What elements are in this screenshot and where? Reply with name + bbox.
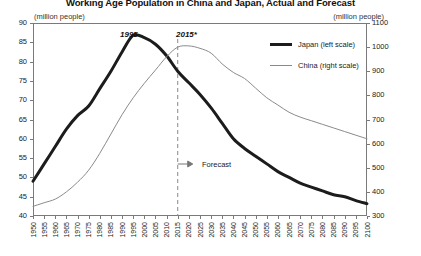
x-tickmark — [33, 216, 34, 219]
x-tickmark — [100, 216, 101, 219]
x-tick-2055: 2055 — [263, 222, 270, 238]
x-tickmark — [356, 216, 357, 219]
x-tick-2015: 2015 — [174, 222, 181, 238]
y-tickmark-right — [367, 95, 370, 96]
y-tick-left-40: 40 — [5, 212, 27, 220]
legend-swatch-china-icon — [270, 65, 292, 66]
x-tickmark — [66, 216, 67, 219]
y-tick-left-65: 65 — [5, 116, 27, 124]
x-tickmark — [267, 216, 268, 219]
x-tick-2000: 2000 — [141, 222, 148, 238]
x-tick-2010: 2010 — [163, 222, 170, 238]
x-tickmark — [345, 216, 346, 219]
x-tick-1975: 1975 — [85, 222, 92, 238]
y-tick-right-400: 400 — [372, 188, 398, 196]
x-tickmark — [278, 216, 279, 219]
x-tickmark — [78, 216, 79, 219]
y-tick-left-80: 80 — [5, 58, 27, 66]
x-tick-2040: 2040 — [230, 222, 237, 238]
forecast-arrow-icon — [178, 161, 193, 167]
x-tickmark — [334, 216, 335, 219]
x-tick-2060: 2060 — [274, 222, 281, 238]
y-tick-left-70: 70 — [5, 96, 27, 104]
x-tickmark — [155, 216, 156, 219]
x-tickmark — [44, 216, 45, 219]
y-tick-left-60: 60 — [5, 135, 27, 143]
x-tickmark — [144, 216, 145, 219]
annotation-forecast: Forecast — [202, 160, 231, 169]
x-tickmark — [133, 216, 134, 219]
x-tick-1980: 1980 — [96, 222, 103, 238]
x-tickmark — [300, 216, 301, 219]
chart-title: Working Age Population in China and Japa… — [0, 0, 421, 8]
x-tickmark — [111, 216, 112, 219]
x-tickmark — [311, 216, 312, 219]
x-tick-2020: 2020 — [185, 222, 192, 238]
x-tickmark — [211, 216, 212, 219]
y-tickmark-right — [367, 168, 370, 169]
x-tick-2050: 2050 — [252, 222, 259, 238]
x-tickmark — [167, 216, 168, 219]
y-tick-right-500: 500 — [372, 164, 398, 172]
x-tick-2095: 2095 — [352, 222, 359, 238]
x-tickmark — [256, 216, 257, 219]
x-tick-2030: 2030 — [208, 222, 215, 238]
x-tickmark — [245, 216, 246, 219]
y-tick-left-90: 90 — [5, 19, 27, 27]
x-tickmark — [189, 216, 190, 219]
y-tick-left-75: 75 — [5, 77, 27, 85]
x-tickmark — [122, 216, 123, 219]
x-tick-2025: 2025 — [197, 222, 204, 238]
x-tickmark — [55, 216, 56, 219]
x-tick-1995: 1995 — [130, 222, 137, 238]
y-tick-right-1100: 1100 — [372, 19, 398, 27]
y-tick-right-700: 700 — [372, 116, 398, 124]
x-tick-2005: 2005 — [152, 222, 159, 238]
left-axis-unit-label: (million people) — [34, 12, 85, 21]
legend-item-japan: Japan (left scale) — [270, 40, 390, 49]
x-tick-1955: 1955 — [41, 222, 48, 238]
x-tick-1950: 1950 — [30, 222, 37, 238]
y-tickmark-right — [367, 120, 370, 121]
x-tickmark — [367, 216, 368, 219]
x-tick-2070: 2070 — [297, 222, 304, 238]
annotation-1995: 1995 — [120, 30, 138, 39]
y-tick-left-45: 45 — [5, 193, 27, 201]
y-tick-right-600: 600 — [372, 140, 398, 148]
x-axis-ticks: 1950195519601965197019751980198519901995… — [33, 219, 367, 256]
x-tick-2075: 2075 — [308, 222, 315, 238]
x-tickmark — [89, 216, 90, 219]
x-tick-2035: 2035 — [219, 222, 226, 238]
y-tick-right-800: 800 — [372, 91, 398, 99]
y-tick-right-300: 300 — [372, 212, 398, 220]
x-tick-2100: 2100 — [364, 222, 371, 238]
y-tickmark-right — [367, 192, 370, 193]
y-tickmark-right — [367, 144, 370, 145]
x-tickmark — [222, 216, 223, 219]
x-tickmark — [322, 216, 323, 219]
y-tick-left-50: 50 — [5, 173, 27, 181]
x-tick-2085: 2085 — [330, 222, 337, 238]
x-tick-2090: 2090 — [341, 222, 348, 238]
legend-swatch-japan-icon — [270, 43, 292, 46]
x-tickmark — [289, 216, 290, 219]
x-tickmark — [233, 216, 234, 219]
x-tickmark — [178, 216, 179, 219]
y-tick-left-85: 85 — [5, 38, 27, 46]
x-tickmark — [200, 216, 201, 219]
chart-root: Working Age Population in China and Japa… — [0, 0, 421, 256]
legend-label-japan: Japan (left scale) — [298, 40, 355, 49]
x-tick-2080: 2080 — [319, 222, 326, 238]
y-tickmark-right — [367, 23, 370, 24]
chart-legend: Japan (left scale) China (right scale) — [270, 40, 390, 82]
x-tick-1970: 1970 — [74, 222, 81, 238]
x-tick-2065: 2065 — [286, 222, 293, 238]
x-tick-1985: 1985 — [107, 222, 114, 238]
x-tick-1990: 1990 — [119, 222, 126, 238]
annotation-2015: 2015* — [176, 30, 197, 39]
x-tick-1960: 1960 — [52, 222, 59, 238]
x-tick-1965: 1965 — [63, 222, 70, 238]
y-tick-left-55: 55 — [5, 154, 27, 162]
legend-item-china: China (right scale) — [270, 61, 390, 70]
legend-label-china: China (right scale) — [298, 61, 359, 70]
